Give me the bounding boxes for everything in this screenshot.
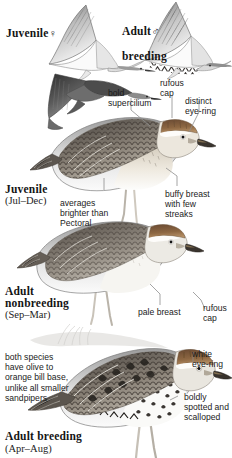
annotation-distinct-eye-ring: distinct eye-ring xyxy=(185,96,216,116)
caption-adult-breeding-name: Adult breeding xyxy=(5,430,82,443)
caption-adult-breeding-dates: (Apr–Aug) xyxy=(5,443,52,455)
female-symbol: ♀ xyxy=(49,27,57,39)
annotation-bold-supercilium: bold supercilium xyxy=(108,88,151,108)
annotation-boldly-spotted: boldly spotted and scalloped xyxy=(184,392,229,423)
caption-adult-nonbreeding-name2: nonbreeding xyxy=(5,297,69,310)
header-adult-label: Adult xyxy=(122,25,151,37)
caption-adult-nonbreeding-name1: Adult xyxy=(5,285,34,298)
annotation-rufous-cap-top: rufous cap xyxy=(160,78,184,98)
bill xyxy=(197,139,216,147)
annotation-white-eye-ring: white eye-ring xyxy=(192,349,223,369)
note-bill-base: both species have olive to orange bill b… xyxy=(5,352,69,403)
bill xyxy=(185,244,204,252)
header-juvenile-female: Juvenile♀ xyxy=(6,14,57,39)
field-guide-plate: Juvenile♀ Adult♂ breeding bold supercili… xyxy=(0,0,232,458)
caption-juvenile-name: Juvenile xyxy=(5,183,48,196)
bill xyxy=(213,371,232,379)
caption-adult-nonbreeding-dates: (Sep–Mar) xyxy=(5,309,51,321)
ground-vegetation xyxy=(30,324,168,348)
male-symbol: ♂ xyxy=(151,25,159,37)
eye xyxy=(170,241,173,244)
annotation-pale-breast: pale breast xyxy=(138,307,181,317)
annotation-rufous-cap-lower: rufous cap xyxy=(203,303,227,323)
caption-juvenile-dates: (Jul–Dec) xyxy=(5,195,46,207)
eye xyxy=(182,136,185,139)
annotation-buffy-breast: buffy breast with few streaks xyxy=(165,189,210,220)
header-breeding-label: breeding xyxy=(122,50,167,62)
header-juvenile-label: Juvenile xyxy=(6,27,49,39)
annotation-averages-brighter: averages brighter than Pectoral xyxy=(60,198,108,229)
header-adult-male-breeding: Adult♂ breeding xyxy=(122,12,167,62)
